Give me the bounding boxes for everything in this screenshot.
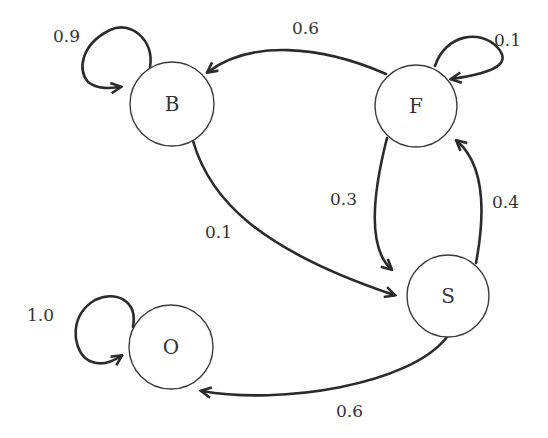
node-b-label: B: [165, 92, 180, 116]
node-b: B: [130, 62, 214, 146]
edge-label-f-b: 0.6: [292, 18, 319, 38]
node-s-label: S: [441, 284, 455, 308]
edge-f-s: [375, 138, 391, 269]
state-diagram: B F S O 0.9 0.6 0.1 0.1 0.3 0.4 1.0 0.6: [0, 0, 548, 438]
edge-label-b-b: 0.9: [53, 26, 80, 46]
edge-label-o-o: 1.0: [27, 305, 54, 325]
edge-f-f: [435, 37, 503, 79]
edge-o-o: [76, 296, 134, 363]
edge-label-f-s: 0.3: [330, 189, 357, 209]
node-o-label: O: [163, 335, 179, 359]
edge-label-s-o: 0.6: [336, 401, 363, 421]
edge-label-s-f: 0.4: [492, 192, 519, 212]
node-s: S: [407, 255, 489, 337]
edge-label-f-f: 0.1: [494, 30, 521, 50]
node-o: O: [129, 305, 213, 389]
node-f-label: F: [409, 94, 423, 118]
edge-s-f: [457, 141, 481, 263]
node-f: F: [375, 65, 457, 147]
edge-f-b: [208, 50, 386, 74]
edge-b-s: [193, 141, 394, 295]
edge-s-o: [202, 337, 447, 395]
edge-label-b-s: 0.1: [205, 222, 232, 242]
